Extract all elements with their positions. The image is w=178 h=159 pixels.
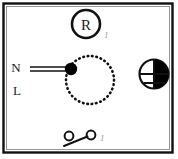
terminal-label-n: N (11, 60, 21, 75)
schematic-diagram: R 1 N L (0, 0, 178, 159)
component-resistor-node: R (72, 10, 100, 38)
shaded-indicator-icon (140, 60, 169, 89)
resistor-label: R (81, 17, 91, 33)
schematic-canvas: R 1 N L (0, 0, 178, 159)
callout-resistor-label: 1 (104, 30, 109, 40)
terminal-label-l: L (13, 83, 21, 98)
connection-node-icon (65, 63, 77, 75)
callout-switch-label: 1 (100, 133, 105, 143)
